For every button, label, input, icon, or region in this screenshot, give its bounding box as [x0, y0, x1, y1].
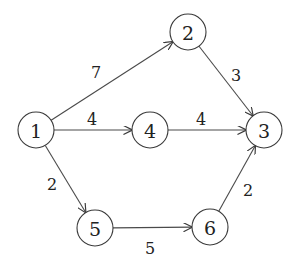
edge-1-to-4: 4	[54, 110, 132, 131]
edge-1-to-2: 7	[51, 42, 173, 120]
edge-weight-label: 2	[47, 175, 57, 194]
edge-6-to-3: 2	[219, 146, 255, 212]
edge-arrow	[51, 42, 173, 120]
edge-weight-label: 4	[87, 110, 97, 129]
node-1: 1	[18, 112, 54, 148]
directed-graph-diagram: 7344252 123456	[0, 0, 300, 263]
edge-weight-label: 7	[91, 63, 101, 82]
node-label: 3	[258, 120, 270, 142]
node-3: 3	[246, 112, 282, 148]
edge-weight-label: 5	[145, 239, 155, 258]
node-4: 4	[132, 112, 168, 148]
node-label: 1	[30, 120, 42, 142]
node-2: 2	[170, 14, 206, 50]
edge-weight-label: 3	[231, 66, 241, 85]
edge-4-to-3: 4	[168, 110, 246, 131]
edge-weight-label: 4	[196, 110, 206, 129]
edge-arrow	[219, 146, 255, 212]
node-label: 6	[204, 217, 216, 239]
edge-weight-label: 2	[243, 181, 253, 200]
edge-2-to-3: 3	[199, 46, 253, 116]
edge-5-to-6: 5	[113, 227, 192, 257]
node-label: 5	[89, 218, 101, 240]
edge-arrow	[113, 227, 192, 228]
edge-1-to-5: 2	[45, 145, 85, 212]
node-5: 5	[77, 210, 113, 246]
node-label: 4	[144, 120, 156, 142]
node-label: 2	[182, 22, 194, 44]
node-6: 6	[192, 209, 228, 245]
edge-arrow	[199, 46, 253, 116]
